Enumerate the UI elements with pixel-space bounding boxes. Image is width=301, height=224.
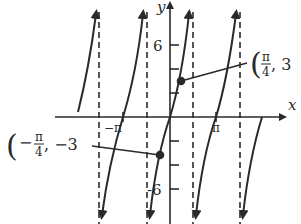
svg-text:4: 4 bbox=[35, 145, 43, 159]
axes bbox=[55, 5, 283, 224]
svg-text:4: 4 bbox=[262, 65, 270, 79]
tick-label-pi: π bbox=[212, 121, 220, 135]
svg-text:(: ( bbox=[6, 128, 18, 163]
tick-label-6: 6 bbox=[153, 37, 163, 55]
y-axis-label: y bbox=[156, 0, 166, 16]
label-neg-pi4-neg3: ( − π 4 , −3 bbox=[6, 128, 78, 163]
leader-line bbox=[181, 63, 247, 81]
svg-text:, 3: , 3 bbox=[271, 55, 291, 74]
svg-text:, −3: , −3 bbox=[44, 135, 78, 154]
svg-text:(: ( bbox=[250, 46, 262, 81]
svg-text:π: π bbox=[262, 50, 270, 64]
label-pi4-3: ( π 4 , 3 bbox=[250, 46, 291, 81]
leader-line bbox=[92, 146, 160, 155]
curve-branch bbox=[196, 14, 236, 215]
point-pi4-3 bbox=[178, 78, 185, 85]
curve-branch bbox=[243, 117, 262, 215]
point-neg-pi4-neg3 bbox=[157, 152, 164, 159]
svg-text:π: π bbox=[35, 130, 43, 144]
svg-text:−: − bbox=[19, 133, 32, 152]
tangent-graph: y x 6 -6 −π π ( π 4 , 3 ( − π 4 , −3 bbox=[0, 0, 301, 224]
tick-label-neg-pi: −π bbox=[104, 121, 122, 135]
curve-branch bbox=[78, 14, 96, 112]
tick-label-neg6: -6 bbox=[147, 181, 162, 199]
x-axis-label: x bbox=[288, 96, 297, 114]
